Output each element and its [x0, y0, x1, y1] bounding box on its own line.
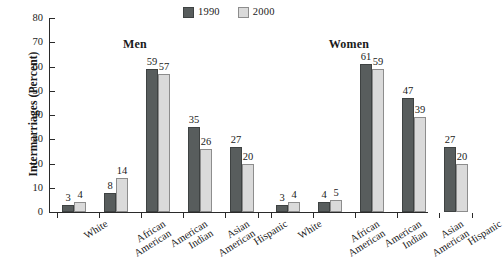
legend-swatch-1990	[183, 7, 194, 18]
x-axis-category-label: AmericanIndian	[382, 218, 429, 259]
category-label-line1: Hispanic	[252, 218, 289, 247]
bar	[372, 69, 384, 212]
bar	[456, 164, 468, 213]
bar-value-label: 27	[440, 135, 460, 146]
category-label-line1: White	[82, 218, 110, 241]
bar-value-label: 14	[112, 166, 132, 177]
bar	[158, 74, 170, 212]
x-axis-category-label: AfricanAmerican	[126, 218, 173, 259]
x-axis-category-label: Hispanic	[252, 218, 289, 247]
y-axis-tick	[50, 18, 55, 19]
bar-value-label: 35	[184, 115, 204, 126]
bar	[74, 202, 86, 212]
bar	[288, 202, 300, 212]
bar	[116, 178, 128, 212]
bar-value-label: 27	[226, 135, 246, 146]
bar	[414, 117, 426, 212]
x-axis-category-label: AsianAmerican	[424, 218, 471, 259]
bar-value-label: 5	[326, 188, 346, 199]
legend-item-1990: 1990	[183, 7, 220, 18]
panel-title-men: Men	[100, 37, 170, 52]
x-axis-category-label: Hispanic	[466, 218, 503, 247]
y-axis-tick-label: 80	[15, 13, 43, 24]
bar	[104, 193, 116, 212]
bar-value-label: 20	[452, 152, 472, 163]
x-axis-tick	[183, 213, 184, 218]
category-label-line1: White	[296, 218, 324, 241]
x-axis-category-label: AmericanIndian	[168, 218, 215, 259]
x-axis-tick	[271, 213, 272, 218]
y-axis-tick	[50, 188, 55, 189]
x-axis-tick	[99, 213, 100, 218]
x-axis-category-label: White	[296, 218, 324, 241]
x-axis-tick	[397, 213, 398, 218]
x-axis-tick	[355, 213, 356, 218]
bar-value-label: 20	[238, 152, 258, 163]
chart-legend: 1990 2000	[183, 7, 275, 18]
y-axis-tick	[50, 164, 55, 165]
y-axis-tick-label: 10	[15, 183, 43, 194]
bar-value-label: 39	[410, 105, 430, 116]
bar-value-label: 47	[398, 86, 418, 97]
x-axis-tick	[258, 213, 259, 218]
y-axis-tick-label: 20	[15, 159, 43, 170]
x-axis-tick	[141, 213, 142, 218]
legend-item-2000: 2000	[238, 7, 275, 18]
y-axis-tick	[50, 139, 55, 140]
bar-value-label: 26	[196, 137, 216, 148]
y-axis-tick	[50, 115, 55, 116]
x-axis-category-label: AfricanAmerican	[340, 218, 387, 259]
bar	[242, 164, 254, 213]
y-axis-tick-label: 50	[15, 86, 43, 97]
legend-swatch-2000	[238, 7, 249, 18]
bar	[330, 200, 342, 212]
bar	[146, 69, 158, 212]
y-axis-tick-label: 40	[15, 110, 43, 121]
x-axis-tick	[313, 213, 314, 218]
panel-title-women: Women	[314, 37, 384, 52]
x-axis-tick	[57, 213, 58, 218]
bar-value-label: 4	[284, 190, 304, 201]
y-axis-tick	[50, 91, 55, 92]
x-axis-tick	[439, 213, 440, 218]
y-axis-tick-label: 60	[15, 62, 43, 73]
x-axis-category-label: AsianAmerican	[210, 218, 257, 259]
category-label-line1: Hispanic	[466, 218, 503, 247]
x-axis-line	[49, 212, 428, 213]
bar-value-label: 4	[70, 190, 90, 201]
bar-value-label: 59	[368, 57, 388, 68]
bar	[62, 205, 74, 212]
x-axis-tick	[225, 213, 226, 218]
y-axis-tick-label: 30	[15, 134, 43, 145]
bar	[360, 64, 372, 212]
x-axis-category-label: White	[82, 218, 110, 241]
y-axis-tick-label: 70	[15, 37, 43, 48]
y-axis-tick	[50, 212, 55, 213]
y-axis-tick	[50, 42, 55, 43]
y-axis-tick	[50, 67, 55, 68]
legend-label-1990: 1990	[198, 7, 220, 18]
y-axis-tick-label: 0	[15, 207, 43, 218]
x-axis-tick	[472, 213, 473, 218]
bar	[200, 149, 212, 212]
bar-value-label: 57	[154, 62, 174, 73]
legend-label-2000: 2000	[253, 7, 275, 18]
bar	[276, 205, 288, 212]
bar	[318, 202, 330, 212]
